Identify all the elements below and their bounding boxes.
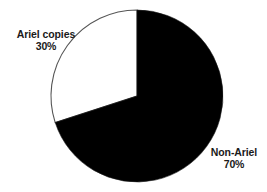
pie-label-ariel-copies: Ariel copies 30% (10, 29, 82, 52)
pie-chart-figure: Ariel copies 30% Non-Ariel 70% (0, 0, 267, 192)
pie-label-non-ariel: Non-Ariel 70% (204, 147, 264, 170)
pie-label-non-ariel-name: Non-Ariel (204, 147, 264, 159)
pie-label-ariel-copies-name: Ariel copies (10, 29, 82, 41)
pie-label-non-ariel-value: 70% (204, 159, 264, 171)
pie-label-ariel-copies-value: 30% (10, 41, 82, 53)
